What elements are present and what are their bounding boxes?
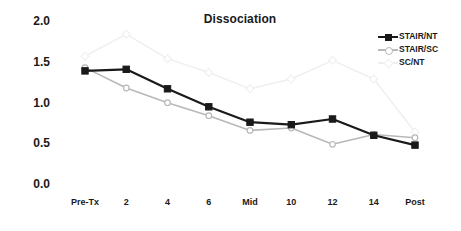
series-line (85, 34, 415, 132)
data-point (247, 119, 253, 125)
data-point (329, 116, 335, 122)
data-point (164, 86, 170, 92)
legend-item-stair-nt: STAIR/NT (378, 30, 461, 43)
data-point (246, 85, 254, 93)
legend-swatch-stair-sc (378, 44, 398, 55)
legend-label-stair-nt: STAIR/NT (398, 31, 438, 42)
chart-legend: STAIR/NT STAIR/SC SC/NT (378, 30, 461, 69)
data-point (165, 100, 171, 106)
series-stair-sc (82, 65, 418, 147)
data-point (164, 55, 172, 63)
data-point (81, 52, 89, 60)
legend-marker-swatch (385, 34, 392, 41)
legend-label-sc-nt: SC/NT (398, 57, 425, 68)
legend-swatch-stair-nt (378, 31, 398, 42)
legend-marker-swatch (384, 58, 394, 68)
data-point (122, 30, 130, 38)
legend-item-sc-nt: SC/NT (378, 56, 461, 69)
data-point (124, 85, 130, 91)
legend-marker-swatch (385, 47, 393, 55)
data-point (205, 68, 213, 76)
data-point (412, 142, 418, 148)
data-point (206, 104, 212, 110)
data-point (330, 142, 336, 148)
data-point (329, 56, 337, 64)
legend-swatch-sc-nt (378, 57, 398, 68)
data-point (247, 128, 253, 134)
dissociation-line-chart: Dissociation 0.00.51.01.52.0 Pre-Tx246Mi… (0, 0, 461, 231)
data-point (412, 135, 418, 141)
data-point (206, 113, 212, 119)
data-point (288, 122, 294, 128)
data-point (371, 132, 377, 138)
data-point (82, 68, 88, 74)
data-point (123, 66, 129, 72)
data-point (287, 75, 295, 83)
legend-item-stair-sc: STAIR/SC (378, 43, 461, 56)
legend-label-stair-sc: STAIR/SC (398, 44, 438, 55)
